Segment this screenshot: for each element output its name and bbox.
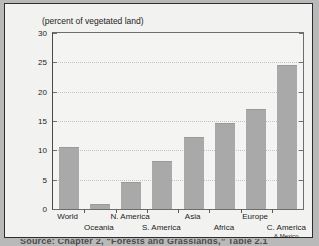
- gridline: [53, 62, 303, 63]
- figure: (percent of vegetated land) 051015202530…: [0, 0, 319, 246]
- chart-title: (percent of vegetated land): [42, 16, 144, 26]
- x-axis-tick: [84, 209, 85, 213]
- y-axis-tick-right: [299, 209, 303, 210]
- y-axis-label: 10: [38, 146, 47, 155]
- x-axis-label: Europe: [242, 212, 268, 221]
- y-axis-tick-right: [299, 150, 303, 151]
- x-axis-tick: [178, 209, 179, 213]
- y-axis-tick-right: [299, 121, 303, 122]
- x-axis-label: S. America: [142, 223, 181, 232]
- gridline: [53, 92, 303, 93]
- y-axis-tick: [53, 92, 57, 93]
- y-axis-label: 0: [43, 205, 47, 214]
- bar: [90, 204, 110, 209]
- y-axis-label: 20: [38, 87, 47, 96]
- source-caption: Source: Chapter 2, “Forests and Grasslan…: [20, 239, 268, 246]
- y-axis-tick: [53, 33, 57, 34]
- y-axis-tick: [53, 150, 57, 151]
- y-axis-tick: [53, 62, 57, 63]
- x-axis-label: N. America: [111, 212, 150, 221]
- y-axis-label: 30: [38, 29, 47, 38]
- caption-band: Source: Chapter 2, “Forests and Grasslan…: [4, 239, 313, 246]
- x-axis-tick: [209, 209, 210, 213]
- bar: [152, 161, 172, 209]
- bar: [277, 65, 297, 209]
- y-axis-tick-right: [299, 33, 303, 34]
- y-axis-label: 15: [38, 117, 47, 126]
- bar: [121, 182, 141, 209]
- y-axis-tick-right: [299, 92, 303, 93]
- y-axis-tick: [53, 209, 57, 210]
- x-axis-tick: [272, 209, 273, 213]
- chart-page: (percent of vegetated land) 051015202530…: [4, 3, 313, 238]
- bar: [184, 137, 204, 209]
- plot-area: 051015202530: [52, 32, 304, 210]
- bar: [215, 123, 235, 209]
- bar: [246, 109, 266, 209]
- y-axis-tick: [53, 180, 57, 181]
- y-axis-label: 5: [43, 175, 47, 184]
- x-axis-label: Asia: [185, 212, 201, 221]
- y-axis-label: 25: [38, 58, 47, 67]
- y-axis-tick: [53, 121, 57, 122]
- bar: [59, 147, 79, 209]
- x-axis-label: Africa: [214, 223, 234, 232]
- x-axis-label: Oceania: [84, 223, 114, 232]
- y-axis-tick-right: [299, 62, 303, 63]
- x-axis-label: World: [57, 212, 78, 221]
- y-axis-tick-right: [299, 180, 303, 181]
